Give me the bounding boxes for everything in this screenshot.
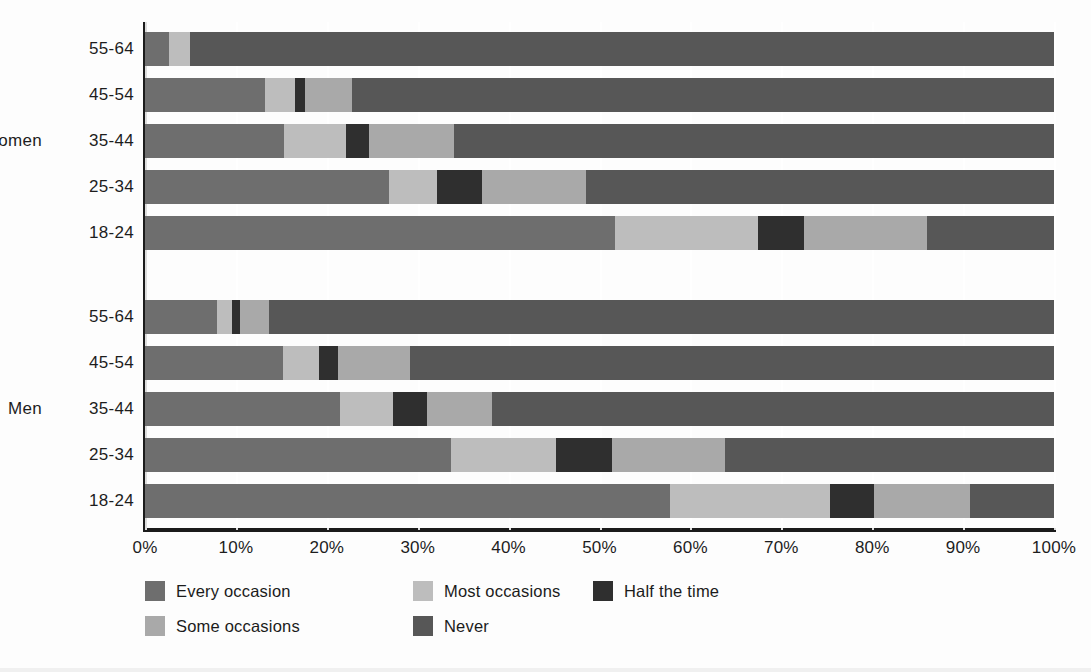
bar-segment [145,392,340,426]
bar-segment [145,32,169,66]
category-label-men-18-24: 18-24 [62,491,134,511]
group-label-men: Men [0,399,42,419]
bar-row [145,124,1054,158]
chart-legend: Every occasionMost occasionsHalf the tim… [145,578,905,646]
bar-segment [145,438,451,472]
bar-segment [145,346,283,380]
bar-segment [145,124,284,158]
bar-segment [670,484,830,518]
x-tick-90: 90% [928,538,998,558]
category-label-men-55-64: 55-64 [62,307,134,327]
bar-segment [393,392,427,426]
chart-title-clipped [18,0,658,5]
bar-segment [427,392,492,426]
bar-row [145,438,1054,472]
bar-row [145,300,1054,334]
bar-segment [556,438,612,472]
bar-segment [725,438,1054,472]
bar-row [145,170,1054,204]
x-tick-70: 70% [746,538,816,558]
bar-segment [970,484,1054,518]
bar-segment [284,124,346,158]
bar-segment [437,170,482,204]
bar-segment [927,216,1054,250]
bar-segment [217,300,232,334]
bar-segment [492,392,1054,426]
legend-label: Never [444,617,489,636]
gridline-100 [1054,22,1056,530]
bar-row [145,216,1054,250]
legend-swatch-icon [413,616,433,636]
stacked-bar-chart: 55-6445-5435-4425-3418-2455-6445-5435-44… [0,0,1091,672]
legend-swatch-icon [145,616,165,636]
bar-segment [369,124,454,158]
bar-segment [615,216,758,250]
legend-swatch-icon [413,581,433,601]
bar-segment [346,124,369,158]
bar-segment [265,78,295,112]
bar-row [145,484,1054,518]
legend-item-some-occasions[interactable]: Some occasions [145,613,300,639]
bar-segment [758,216,804,250]
category-label-women-18-24: 18-24 [62,223,134,243]
legend-label: Most occasions [444,582,561,601]
bar-segment [145,170,389,204]
bar-segment [232,300,240,334]
legend-swatch-icon [145,581,165,601]
bar-segment [190,32,1054,66]
bar-segment [305,78,352,112]
x-tick-0: 0% [110,538,180,558]
x-tick-60: 60% [655,538,725,558]
bar-segment [240,300,268,334]
bar-segment [295,78,305,112]
bar-segment [269,300,1054,334]
legend-label: Some occasions [176,617,300,636]
x-tick-80: 80% [837,538,907,558]
category-label-women-25-34: 25-34 [62,177,134,197]
group-label-women: Women [0,131,42,151]
x-tick-100: 100% [1019,538,1089,558]
bar-segment [283,346,318,380]
category-label-women-35-44: 35-44 [62,131,134,151]
bar-segment [804,216,927,250]
category-label-men-25-34: 25-34 [62,445,134,465]
bar-segment [319,346,338,380]
page-bottom-edge [0,668,1091,672]
legend-item-most-occasions[interactable]: Most occasions [413,578,561,604]
x-tick-40: 40% [474,538,544,558]
category-label-men-35-44: 35-44 [62,399,134,419]
legend-label: Half the time [624,582,719,601]
bar-segment [410,346,1054,380]
bar-segment [169,32,191,66]
bar-segment [340,392,393,426]
bar-segment [145,484,670,518]
x-tick-50: 50% [565,538,635,558]
category-label-men-45-54: 45-54 [62,353,134,373]
bar-row [145,78,1054,112]
bar-segment [874,484,970,518]
x-tick-10: 10% [201,538,271,558]
bar-segment [352,78,1054,112]
legend-label: Every occasion [176,582,291,601]
bar-segment [145,216,615,250]
bar-segment [586,170,1054,204]
bar-segment [451,438,556,472]
legend-item-never[interactable]: Never [413,613,489,639]
bar-segment [482,170,586,204]
bar-segment [389,170,437,204]
bar-segment [145,78,265,112]
legend-item-half-the-time[interactable]: Half the time [593,578,719,604]
category-label-women-45-54: 45-54 [62,85,134,105]
bar-row [145,32,1054,66]
x-tick-30: 30% [383,538,453,558]
plot-area [145,22,1054,530]
bar-segment [454,124,1054,158]
bar-segment [612,438,725,472]
bar-segment [145,300,217,334]
bar-row [145,392,1054,426]
x-tick-20: 20% [292,538,362,558]
legend-item-every-occasion[interactable]: Every occasion [145,578,291,604]
legend-swatch-icon [593,581,613,601]
bar-segment [830,484,874,518]
bar-row [145,346,1054,380]
